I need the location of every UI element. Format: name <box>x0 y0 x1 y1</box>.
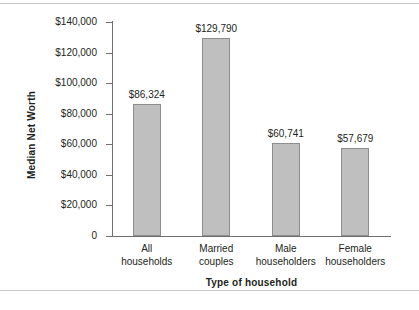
x-tick-label-line: All <box>121 242 172 255</box>
x-tick-label-line: householders <box>256 255 316 268</box>
y-tick-label: $60,000 <box>61 137 97 150</box>
y-tick-0: 0 <box>106 236 112 237</box>
x-tick-label: Marriedcouples <box>199 242 233 268</box>
y-tick-60000: $60,000 <box>106 144 112 145</box>
x-tick-label-line: Married <box>199 242 233 255</box>
y-tick-140000: $140,000 <box>106 22 112 23</box>
x-tick-label-line: Female <box>325 242 385 255</box>
chart-figure: Median Net Worth 0$20,000$40,000$60,000$… <box>0 0 419 310</box>
y-tick-40000: $40,000 <box>106 175 112 176</box>
x-tick-label-line: households <box>121 255 172 268</box>
x-tick-label: Allhouseholds <box>121 242 172 268</box>
y-tick-20000: $20,000 <box>106 205 112 206</box>
bottom-divider-rule <box>0 290 419 291</box>
bar: $86,324Allhouseholds <box>133 104 161 236</box>
y-tick-label: $120,000 <box>55 46 97 59</box>
x-tick-label-line: householders <box>325 255 385 268</box>
x-tick-label-line: Male <box>256 242 316 255</box>
x-tick-label: Malehouseholders <box>256 242 316 268</box>
x-axis-line <box>112 236 391 237</box>
x-tick-label: Femalehouseholders <box>325 242 385 268</box>
bar: $57,679Femalehouseholders <box>341 148 369 236</box>
bar-value-label: $129,790 <box>195 23 237 35</box>
y-tick-label: 0 <box>91 229 97 242</box>
bar: $129,790Marriedcouples <box>202 38 230 236</box>
plot-area: 0$20,000$40,000$60,000$80,000$100,000$12… <box>112 22 390 236</box>
bar: $60,741Malehouseholders <box>272 143 300 236</box>
y-tick-label: $20,000 <box>61 198 97 211</box>
y-axis-title: Median Net Worth <box>24 75 38 195</box>
y-tick-label: $40,000 <box>61 168 97 181</box>
bar-value-label: $86,324 <box>129 89 165 101</box>
x-tick-label-line: couples <box>199 255 233 268</box>
y-tick-120000: $120,000 <box>106 53 112 54</box>
y-tick-80000: $80,000 <box>106 114 112 115</box>
y-tick-label: $80,000 <box>61 107 97 120</box>
top-divider-rule <box>0 3 419 4</box>
y-tick-100000: $100,000 <box>106 83 112 84</box>
bar-value-label: $60,741 <box>268 128 304 140</box>
y-tick-label: $140,000 <box>55 15 97 28</box>
y-tick-label: $100,000 <box>55 76 97 89</box>
x-axis-title: Type of household <box>112 277 391 288</box>
y-axis-title-text: Median Net Worth <box>26 91 37 179</box>
bar-value-label: $57,679 <box>337 133 373 145</box>
